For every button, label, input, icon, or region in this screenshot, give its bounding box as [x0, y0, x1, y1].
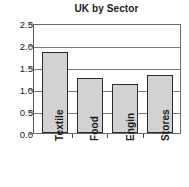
x-axis-labels: TextileFoodEnginStores [33, 139, 181, 187]
x-axis-category-label: Food [89, 116, 100, 141]
y-axis: 0.00.51.01.52.02.5 [0, 24, 33, 134]
x-label-slot: Food [72, 139, 108, 187]
x-label-slot: Textile [36, 139, 72, 187]
x-label-slot: Stores [143, 139, 179, 187]
x-label-slot: Engin [107, 139, 143, 187]
x-axis-category-label: Engin [125, 113, 136, 141]
chart-title: UK by Sector [28, 3, 185, 14]
x-axis-category-label: Textile [54, 109, 65, 141]
x-axis-category-label: Stores [160, 109, 171, 141]
bar-chart: UK by Sector 0.00.51.01.52.02.5 TextileF… [0, 0, 189, 187]
x-axis-tick-mark [143, 134, 144, 138]
x-axis-tick-mark [107, 134, 108, 138]
x-axis-tick-mark [72, 134, 73, 138]
